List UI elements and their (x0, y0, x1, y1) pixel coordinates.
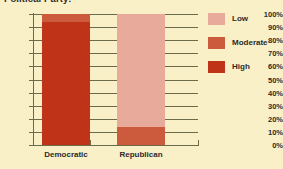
legend-swatch-moderate (208, 37, 225, 49)
y-axis-tick-label: 30% (255, 101, 283, 110)
legend-label-moderate: Moderate (232, 37, 268, 49)
chart-container: Political Party: 100%90%80%70%60%50%40%3… (0, 0, 283, 169)
legend-swatch-high (208, 61, 225, 73)
x-axis-mid-tick (90, 140, 91, 146)
y-axis-tick (29, 145, 34, 146)
bar-segment-low (117, 14, 165, 127)
y-axis-tick-label: 40% (255, 88, 283, 97)
gridline (33, 145, 198, 146)
y-axis-tick-label: 0% (255, 141, 283, 150)
bar-segment-high (42, 22, 90, 145)
chart-title: Political Party: (4, 0, 72, 4)
x-axis-end-tick (198, 140, 199, 146)
y-axis-tick (29, 80, 34, 81)
y-axis-tick-label: 60% (255, 62, 283, 71)
y-axis-tick (29, 40, 34, 41)
y-axis-tick-label: 90% (255, 23, 283, 32)
y-axis-tick (29, 27, 34, 28)
x-axis-label-republican: Republican (96, 150, 186, 159)
y-axis-tick (29, 106, 34, 107)
y-axis-tick (29, 14, 34, 15)
y-axis-tick-label: 100% (255, 10, 283, 19)
legend-swatch-low (208, 13, 225, 25)
y-axis-tick (29, 93, 34, 94)
y-axis-tick (29, 53, 34, 54)
y-axis-tick-label: 20% (255, 114, 283, 123)
bar-democratic (42, 14, 90, 145)
bar-segment-moderate (42, 14, 90, 22)
y-axis-tick (29, 119, 34, 120)
y-axis-tick (29, 132, 34, 133)
y-axis-tick-label: 70% (255, 49, 283, 58)
y-axis-tick-label: 50% (255, 75, 283, 84)
y-axis-tick (29, 66, 34, 67)
bar-segment-moderate (117, 127, 165, 145)
legend-label-low: Low (232, 13, 248, 25)
y-axis-tick-label: 10% (255, 127, 283, 136)
legend-label-high: High (232, 61, 250, 73)
bar-republican (117, 14, 165, 145)
